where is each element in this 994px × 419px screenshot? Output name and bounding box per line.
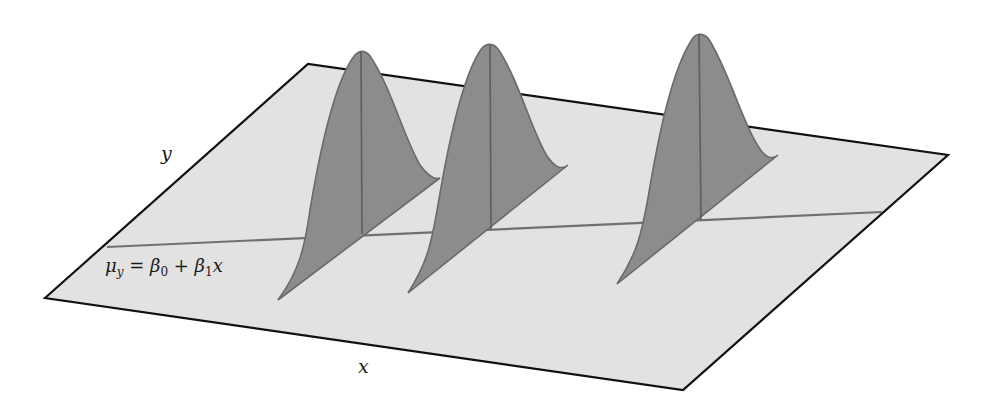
regression-diagram [0,0,994,419]
mu-symbol: μ [105,255,117,276]
regression-equation: μy = β0 + β1x [105,255,223,279]
beta1-symbol: β [195,255,205,276]
x-axis-label: x [358,355,369,377]
x-variable: x [213,255,223,276]
equals-sign: = [123,255,150,276]
plus-sign: + [168,255,195,276]
beta0-subscript: 0 [160,265,168,279]
beta1-subscript: 1 [205,265,213,279]
beta0-symbol: β [150,255,160,276]
y-axis-label: y [161,142,172,164]
